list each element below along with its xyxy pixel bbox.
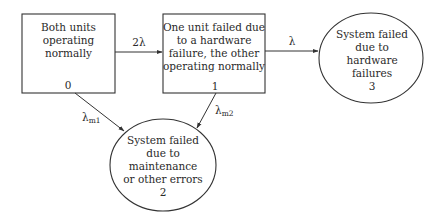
state-3-line-2: due to bbox=[355, 41, 389, 53]
edge-0-to-2-label: λm1 bbox=[82, 111, 101, 125]
state-2-line-2: due to bbox=[146, 147, 180, 159]
state-2-number: 2 bbox=[160, 186, 167, 198]
state-3-number: 3 bbox=[369, 80, 376, 92]
state-1-line-2: to a hardware bbox=[177, 34, 252, 46]
state-2-line-1: System failed bbox=[127, 134, 199, 146]
state-1-line-1: One unit failed due bbox=[163, 21, 265, 33]
state-1-number: 1 bbox=[212, 80, 219, 92]
state-3-line-4: failures bbox=[352, 67, 392, 79]
state-2-line-3: maintenance bbox=[129, 160, 198, 172]
state-diagram: Both units operating normally 0 One unit… bbox=[0, 0, 442, 217]
edge-1-to-3-label: λ bbox=[289, 35, 296, 47]
state-3-line-3: hardware bbox=[346, 54, 397, 66]
edge-0-to-2-label-sub: m1 bbox=[89, 116, 101, 125]
diagram-canvas: Both units operating normally 0 One unit… bbox=[0, 0, 442, 217]
state-0-line-3: normally bbox=[45, 47, 92, 59]
state-2-node: System failed due to maintenance or othe… bbox=[110, 119, 216, 211]
arrow-1-to-2 bbox=[197, 93, 216, 128]
edge-1-to-2: λm2 bbox=[197, 93, 234, 128]
state-0-line-2: operating bbox=[43, 34, 95, 46]
edge-1-to-3: λ bbox=[265, 35, 318, 51]
edge-0-to-2: λm1 bbox=[75, 93, 124, 131]
edge-1-to-2-label: λm2 bbox=[215, 104, 234, 118]
state-3-line-1: System failed bbox=[336, 28, 408, 40]
state-1-line-3: failure, the other bbox=[169, 47, 261, 59]
state-0-number: 0 bbox=[65, 79, 72, 91]
edge-0-to-1: 2λ bbox=[115, 36, 162, 52]
state-1-line-4: operating normally bbox=[163, 60, 265, 72]
state-1-node: One unit failed due to a hardware failur… bbox=[163, 14, 265, 93]
state-0-node: Both units operating normally 0 bbox=[22, 14, 115, 93]
state-0-line-1: Both units bbox=[41, 21, 96, 33]
edge-1-to-2-label-sub: m2 bbox=[222, 109, 234, 118]
state-3-node: System failed due to hardware failures 3 bbox=[319, 13, 423, 103]
state-2-line-4: or other errors bbox=[123, 173, 203, 185]
edge-0-to-1-label: 2λ bbox=[132, 36, 146, 48]
